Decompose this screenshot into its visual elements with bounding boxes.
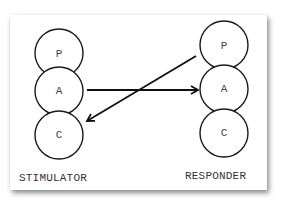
ego-letter-p: P	[221, 40, 228, 52]
stimulator-label: STIMULATOR	[19, 172, 87, 184]
responder-column: P A C	[200, 21, 248, 157]
responder-adult-state: A	[200, 65, 248, 113]
ego-letter-c: C	[221, 127, 228, 139]
ego-letter-p: P	[56, 48, 63, 60]
responder-child-state: C	[200, 109, 248, 157]
responder-label: RESPONDER	[185, 170, 246, 182]
response-arrow-icon	[87, 56, 196, 121]
stimulator-child-state: C	[35, 111, 83, 159]
ego-letter-a: A	[221, 83, 228, 95]
ego-letter-a: A	[56, 85, 63, 97]
stimulator-adult-state: A	[35, 67, 83, 115]
ego-letter-c: C	[56, 129, 63, 141]
responder-parent-state: P	[200, 21, 248, 69]
stimulator-column: P A C	[35, 29, 83, 159]
